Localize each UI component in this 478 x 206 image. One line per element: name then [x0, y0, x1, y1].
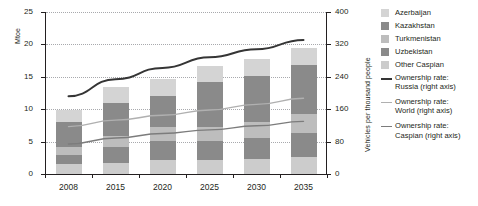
x-tick: [186, 174, 187, 178]
legend-item-label: Uzbekistan: [395, 47, 433, 56]
x-tick: [45, 174, 46, 178]
legend-item-label: Ownership rate: World (right axis): [395, 97, 452, 116]
x-tick-label-2015: 2015: [94, 182, 138, 192]
x-tick-label-2008: 2008: [47, 182, 91, 192]
legend-swatch-icon: [381, 35, 389, 43]
legend-swatch-icon: [381, 61, 389, 69]
y-tick-right: [327, 77, 331, 78]
line-series: [69, 121, 304, 144]
plot-area: 0510152025 080160240320400 2008201520202…: [45, 12, 327, 175]
legend-item[interactable]: Other Caspian: [381, 60, 476, 69]
x-tick: [280, 174, 281, 178]
legend-item-label: Turkmenistan: [395, 34, 441, 43]
legend-swatch-icon: [381, 48, 389, 56]
legend-item[interactable]: Azerbaijan: [381, 8, 476, 17]
y-tick-label-left: 20: [0, 40, 33, 48]
y-tick-label-right: 80: [335, 138, 375, 146]
line-series: [69, 40, 304, 96]
legend: AzerbaijanKazakhstanTurkmenistanUzbekist…: [381, 8, 476, 145]
legend-item[interactable]: Ownership rate: Russia (right axis): [381, 73, 476, 92]
legend-item-label: Ownership rate: Caspian (right axis): [395, 121, 460, 140]
y-tick-label-left: 15: [0, 73, 33, 81]
legend-item-label: Ownership rate: Russia (right axis): [395, 73, 456, 92]
legend-line-icon: [381, 102, 392, 103]
legend-item[interactable]: Turkmenistan: [381, 34, 476, 43]
legend-item[interactable]: Kazakhstan: [381, 21, 476, 30]
chart-figure: Mtoe Vehicles per thousand people 051015…: [0, 0, 478, 206]
y-tick-label-right: 320: [335, 40, 375, 48]
y-tick-right: [327, 142, 331, 143]
line-series-group: [45, 12, 327, 175]
line-series: [69, 98, 304, 126]
y-tick-label-left: 25: [0, 8, 33, 16]
x-tick: [327, 174, 328, 178]
y-tick-label-right: 240: [335, 73, 375, 81]
x-tick-label-2030: 2030: [235, 182, 279, 192]
legend-item[interactable]: Ownership rate: Caspian (right axis): [381, 121, 476, 140]
legend-item[interactable]: Ownership rate: World (right axis): [381, 97, 476, 116]
y-tick-right: [327, 12, 331, 13]
x-tick-label-2025: 2025: [188, 182, 232, 192]
legend-line-icon: [381, 78, 392, 80]
legend-swatch-icon: [381, 22, 389, 30]
x-tick: [139, 174, 140, 178]
legend-item-label: Kazakhstan: [395, 21, 435, 30]
y-tick-label-left: 5: [0, 138, 33, 146]
x-tick-label-2035: 2035: [282, 182, 326, 192]
legend-item-label: Azerbaijan: [395, 8, 431, 17]
y-tick-label-left: 10: [0, 105, 33, 113]
x-tick: [92, 174, 93, 178]
legend-line-icon: [381, 126, 392, 127]
y-tick-label-right: 0: [335, 170, 375, 178]
y-tick-label-right: 160: [335, 105, 375, 113]
legend-item[interactable]: Uzbekistan: [381, 47, 476, 56]
y-tick-right: [327, 44, 331, 45]
x-tick-label-2020: 2020: [141, 182, 185, 192]
y-tick-label-right: 400: [335, 8, 375, 16]
y-tick-right: [327, 109, 331, 110]
legend-item-label: Other Caspian: [395, 60, 444, 69]
y-tick-label-left: 0: [0, 170, 33, 178]
x-tick: [233, 174, 234, 178]
legend-swatch-icon: [381, 9, 389, 17]
